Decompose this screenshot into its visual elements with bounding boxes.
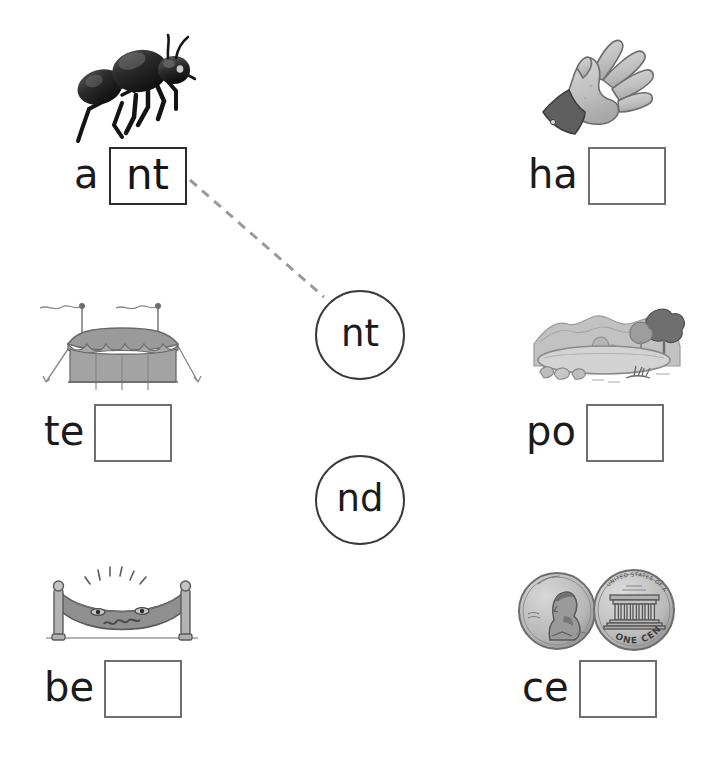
pennies-illustration: UNITED STATES OF AMERICA ONE CENT: [516, 566, 678, 656]
ending-chip-nd-label: nd: [337, 480, 384, 520]
hand-illustration: [533, 34, 661, 146]
word-row-ant: a nt: [74, 147, 187, 205]
word-prefix-hand: ha: [528, 154, 578, 198]
connector-ant-to-nt[interactable]: [190, 180, 324, 297]
word-row-hand: ha: [528, 147, 666, 205]
ant-illustration: [64, 33, 196, 145]
answer-box-bed[interactable]: [104, 660, 182, 718]
answer-box-ant[interactable]: nt: [109, 147, 187, 205]
word-prefix-cent: ce: [522, 667, 569, 711]
answer-box-cent[interactable]: [579, 660, 657, 718]
answer-box-tent[interactable]: [94, 404, 172, 462]
word-row-bed: be: [44, 660, 182, 718]
answer-box-pond[interactable]: [586, 404, 664, 462]
tent-illustration: [38, 294, 206, 394]
word-prefix-ant: a: [74, 154, 99, 198]
word-row-pond: po: [526, 404, 664, 462]
ending-chip-nd[interactable]: nd: [315, 455, 405, 545]
bed-illustration: [38, 566, 206, 652]
ending-chip-nt-label: nt: [341, 315, 379, 355]
answer-box-hand[interactable]: [588, 147, 666, 205]
word-row-tent: te: [44, 404, 172, 462]
worksheet-page: a nt: [0, 0, 705, 766]
ending-chip-nt[interactable]: nt: [315, 290, 405, 380]
word-prefix-bed: be: [44, 667, 94, 711]
word-prefix-pond: po: [526, 411, 576, 455]
word-prefix-tent: te: [44, 411, 84, 455]
pond-illustration: [530, 294, 692, 394]
answer-text-ant: nt: [111, 154, 185, 196]
word-row-cent: ce: [522, 660, 657, 718]
